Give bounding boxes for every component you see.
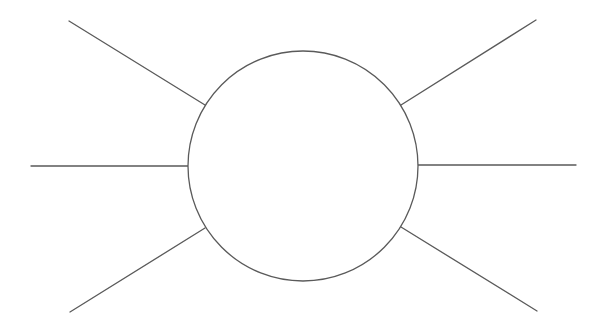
- ray-lower-left: [70, 228, 205, 312]
- ray-lower-right: [401, 227, 537, 311]
- radial-diagram: [0, 0, 604, 335]
- center-circle: [188, 51, 418, 281]
- ray-upper-left: [69, 21, 205, 105]
- ray-upper-right: [401, 20, 536, 105]
